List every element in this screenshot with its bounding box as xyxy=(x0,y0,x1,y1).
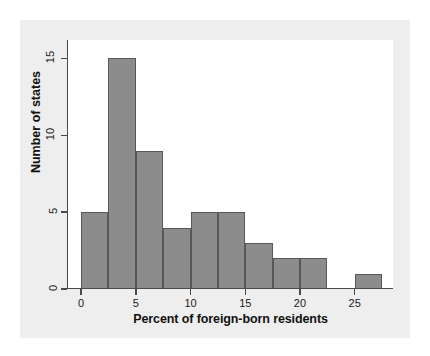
x-axis-tick xyxy=(354,289,355,295)
histogram-bar xyxy=(218,212,245,289)
x-axis-title: Percent of foreign-born residents xyxy=(68,312,393,326)
y-axis-title: Number of states xyxy=(29,42,43,202)
histogram-bar xyxy=(273,258,300,289)
y-axis-line xyxy=(67,40,68,289)
y-axis-tick xyxy=(61,58,67,59)
x-axis-tick-label: 20 xyxy=(285,297,315,309)
y-axis-tick-label: 0 xyxy=(0,282,56,294)
histogram-bar xyxy=(108,58,135,289)
histogram-bar xyxy=(300,258,327,289)
y-axis-tick xyxy=(61,288,67,289)
x-axis-tick xyxy=(80,289,81,295)
x-axis-tick-label: 15 xyxy=(230,297,260,309)
x-axis-tick-label: 25 xyxy=(340,297,370,309)
y-axis-tick-label: 15 xyxy=(0,51,56,63)
x-axis-tick-label: 5 xyxy=(121,297,151,309)
histogram-figure: 051015 0510152025 Percent of foreign-bor… xyxy=(0,0,430,356)
histogram-bar xyxy=(163,228,190,289)
y-axis-tick xyxy=(61,135,67,136)
x-axis-tick-label: 0 xyxy=(66,297,96,309)
histogram-bar xyxy=(191,212,218,289)
histogram-bar xyxy=(136,151,163,289)
histogram-bar xyxy=(245,243,272,289)
y-axis-tick-label: 10 xyxy=(0,128,56,140)
histogram-bar xyxy=(355,274,382,289)
x-axis-line xyxy=(67,288,393,289)
x-axis-tick-label: 10 xyxy=(176,297,206,309)
x-axis-tick xyxy=(299,289,300,295)
y-axis-tick xyxy=(61,211,67,212)
histogram-bar xyxy=(81,212,108,289)
y-axis-tick-label: 5 xyxy=(0,205,56,217)
x-axis-tick xyxy=(245,289,246,295)
x-axis-tick xyxy=(135,289,136,295)
x-axis-tick xyxy=(190,289,191,295)
